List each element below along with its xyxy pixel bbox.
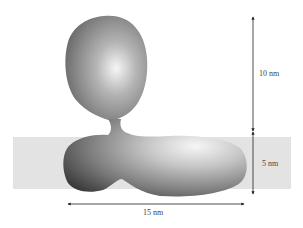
width-label: 15 nm [143, 208, 163, 217]
protein-base [63, 119, 246, 196]
protein-head [65, 16, 147, 121]
protein-membrane-diagram [0, 0, 303, 228]
thickness-label: 5 nm [262, 159, 278, 168]
height-label: 10 nm [259, 69, 279, 78]
